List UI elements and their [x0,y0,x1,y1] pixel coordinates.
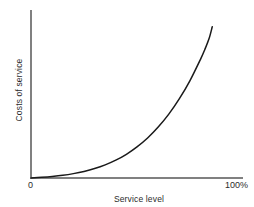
cost-curve-line [31,27,212,178]
x-axis-tick-min: 0 [28,180,33,190]
y-axis-label: Costs of service [14,30,24,150]
cost-of-service-chart: Costs of service Service level 0 100% [0,0,254,207]
x-axis-label: Service level [79,194,199,204]
plot-area [0,0,254,207]
x-axis-tick-max: 100% [178,180,248,190]
